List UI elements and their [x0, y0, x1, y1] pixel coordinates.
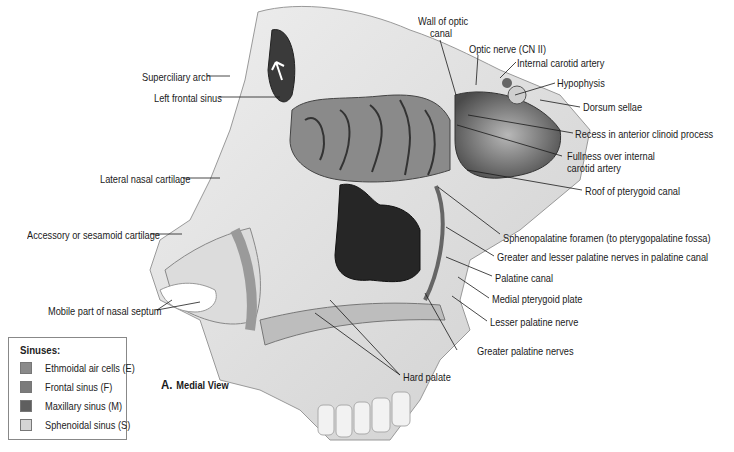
legend-swatch-frontal — [20, 381, 32, 393]
label-internal-carotid-artery: Internal carotid artery — [517, 57, 604, 69]
label-dorsum-sellae: Dorsum sellae — [583, 101, 642, 113]
label-palatine-canal: Palatine canal — [495, 272, 553, 284]
label-lateral-nasal-cartilage: Lateral nasal cartilage — [100, 173, 190, 185]
hypophysis — [508, 86, 526, 104]
legend-swatch-sphenoidal — [20, 419, 32, 431]
label-greater-palatine-nerves: Greater palatine nerves — [477, 345, 574, 357]
label-accessory-sesamoid-cartilage: Accessory or sesamoid cartilage — [27, 229, 160, 241]
view-letter: A. — [161, 377, 172, 392]
legend-swatch-ethmoidal — [20, 362, 32, 374]
label-fullness-internal-carotid: Fullness over internal carotid artery — [567, 150, 655, 174]
label-mobile-nasal-septum: Mobile part of nasal septum — [48, 305, 162, 317]
label-left-frontal-sinus: Left frontal sinus — [154, 92, 222, 104]
label-optic-nerve: Optic nerve (CN II) — [469, 43, 546, 55]
label-lesser-palatine-nerve: Lesser palatine nerve — [490, 316, 578, 328]
label-superciliary-arch: Superciliary arch — [142, 71, 211, 83]
label-hard-palate: Hard palate — [403, 371, 451, 383]
label-roof-pterygoid-canal: Roof of pterygoid canal — [585, 185, 680, 197]
anatomy-figure: Superciliary arch Left frontal sinus Lat… — [0, 0, 734, 452]
sinus-legend: Sinuses: Ethmoidal air cells (E) Frontal… — [8, 337, 127, 440]
legend-swatch-maxillary — [20, 400, 32, 412]
figure-view-title: A. Medial View — [161, 375, 229, 393]
label-wall-of-optic-canal: Wall of optic canal — [418, 15, 464, 39]
legend-title: Sinuses: — [20, 344, 60, 356]
view-name: Medial View — [176, 379, 228, 391]
label-sphenopalatine-foramen: Sphenopalatine foramen (to pterygopalati… — [503, 232, 711, 244]
label-greater-lesser-palatine-nerves: Greater and lesser palatine nerves in pa… — [497, 251, 708, 263]
label-recess-anterior-clinoid: Recess in anterior clinoid process — [575, 128, 713, 140]
label-hypophysis: Hypophysis — [557, 77, 605, 89]
label-medial-pterygoid-plate: Medial pterygoid plate — [492, 293, 582, 305]
ethmoidal-air-cells — [290, 95, 450, 182]
